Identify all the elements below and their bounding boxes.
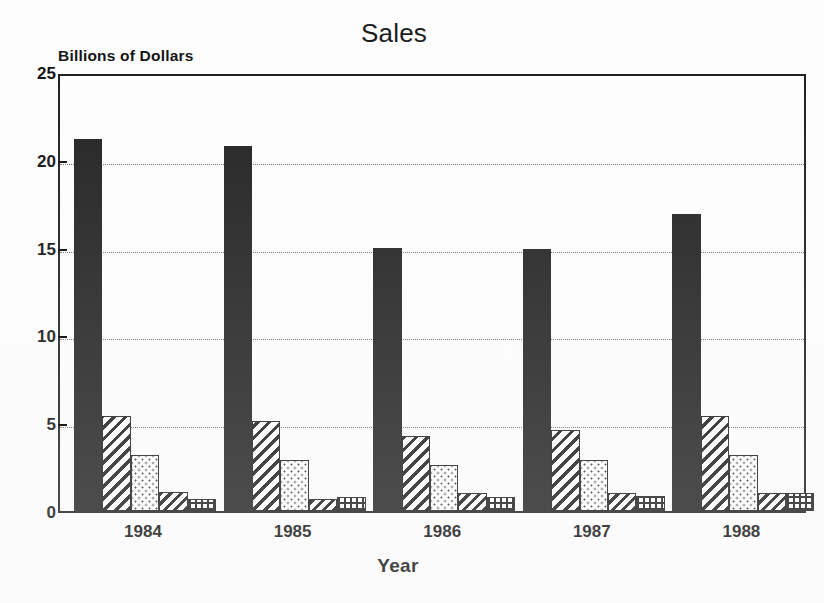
y-axis-tick-mark: [58, 161, 67, 163]
y-axis-tick-label: 5: [10, 415, 56, 435]
x-axis-tick-label: 1987: [573, 522, 611, 542]
bar: [373, 248, 401, 511]
y-axis-tick-mark: [58, 424, 67, 426]
bar: [280, 460, 308, 511]
x-axis-label: Year: [0, 555, 810, 577]
bar-group: [74, 76, 216, 511]
bar: [252, 421, 280, 511]
x-axis-tick-label: 1984: [124, 522, 162, 542]
bar-group: [523, 76, 665, 511]
bar: [458, 493, 486, 511]
x-axis-tick-label: 1985: [274, 522, 312, 542]
bar-chart: Sales Billions of Dollars 0510152025 198…: [0, 0, 824, 603]
x-axis-tick-label: 1986: [423, 522, 461, 542]
y-axis-label: Billions of Dollars: [58, 47, 194, 65]
bar: [636, 496, 664, 511]
y-axis-tick-label: 10: [10, 327, 56, 347]
y-axis-tick-labels: 0510152025: [0, 74, 56, 513]
bar: [402, 436, 430, 512]
bar: [188, 499, 216, 511]
x-axis-tick-label: 1988: [722, 522, 760, 542]
bar-group: [224, 76, 366, 511]
bar: [523, 249, 551, 511]
bar: [786, 493, 814, 511]
bar: [551, 430, 579, 511]
bar: [337, 497, 365, 511]
bar: [74, 139, 102, 511]
bar: [608, 493, 636, 511]
bar: [131, 455, 159, 511]
y-axis-tick-label: 20: [10, 152, 56, 172]
bar: [580, 460, 608, 511]
plot-area: [58, 74, 806, 513]
y-axis-tick-mark: [58, 249, 67, 251]
bar: [159, 492, 187, 511]
y-axis-tick-mark: [58, 336, 67, 338]
bar: [758, 493, 786, 511]
bar: [487, 497, 515, 511]
bar-group: [672, 76, 814, 511]
bar: [672, 214, 700, 511]
bar: [102, 416, 130, 511]
plot-inner: [60, 76, 804, 511]
bar-group: [373, 76, 515, 511]
y-axis-tick-label: 0: [10, 503, 56, 523]
bar: [701, 416, 729, 511]
bar: [224, 146, 252, 511]
bar: [430, 465, 458, 511]
bar: [729, 455, 757, 511]
chart-title: Sales: [0, 18, 806, 49]
y-axis-tick-label: 15: [10, 240, 56, 260]
bar: [309, 499, 337, 511]
y-axis-tick-label: 25: [10, 64, 56, 84]
